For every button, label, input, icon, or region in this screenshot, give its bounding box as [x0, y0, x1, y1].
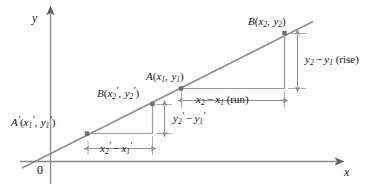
figure-canvas	[0, 0, 379, 194]
run-large-note: (run)	[227, 93, 249, 105]
label-xprime: ′	[116, 85, 118, 96]
slope-similar-triangles-figure: y x 0 A′(x1′, y1′) B(x2′, y2′) A(x1, y1)…	[0, 0, 379, 194]
label-ysub: 2	[278, 20, 282, 29]
point-B-prime-label: B(x2′, y2′)	[97, 88, 139, 99]
point-A-prime-label: A′(x1′, y1′)	[11, 117, 55, 128]
rise-large-minus: −	[316, 53, 322, 65]
point-B-marker	[282, 31, 286, 35]
dimension-rise-large	[288, 34, 306, 89]
point-B-prime-marker	[150, 102, 154, 106]
graph-line	[22, 22, 313, 169]
rise-large-note: (rise)	[336, 53, 359, 65]
x-axis-label: x	[344, 166, 349, 178]
label-comma: ,	[267, 15, 270, 27]
point-A-marker	[179, 86, 183, 90]
label-yprime: ′	[49, 114, 51, 125]
label-ysub: 1	[176, 75, 180, 84]
label-rparen: )	[180, 70, 184, 82]
axes-group	[20, 14, 336, 184]
label-comma: ,	[34, 116, 37, 128]
rise-large-a-sub: 2	[310, 58, 314, 67]
label-name: B	[248, 15, 255, 27]
label-yvar: y	[41, 116, 46, 128]
run-large-b-sub: 1	[220, 98, 224, 107]
rise-small-b-prime: ′	[203, 110, 205, 121]
label-name: A	[146, 70, 153, 82]
rise-small-minus: −	[186, 112, 192, 124]
label-xsub: 1	[161, 75, 165, 84]
rise-large-b-sub: 1	[329, 58, 333, 67]
run-large-minus: −	[207, 93, 213, 105]
label-comma: ,	[118, 87, 121, 99]
run-small-b-prime: ′	[130, 140, 132, 151]
run-large-label: x2 − x1 (run)	[196, 94, 249, 105]
rise-small-a-prime: ′	[182, 110, 184, 121]
run-large-a-sub: 2	[201, 98, 205, 107]
run-small-minus: −	[113, 142, 119, 154]
label-name: A	[11, 116, 18, 128]
point-A-label: A(x1, y1)	[146, 71, 184, 82]
label-rparen: )	[52, 116, 56, 128]
dimension-rise-small	[156, 105, 172, 134]
rise-small-label: y2′ − y1′	[173, 113, 205, 124]
run-small-a-prime: ′	[109, 140, 111, 151]
rise-large-label: y2 − y1 (rise)	[305, 54, 359, 65]
label-rparen: )	[135, 87, 139, 99]
label-xsub: 2	[263, 20, 267, 29]
point-B-label: B(x2, y2)	[248, 16, 286, 27]
run-small-label: x2′ − x1′	[100, 143, 132, 154]
label-comma: ,	[165, 70, 168, 82]
label-prime: ′	[18, 114, 20, 125]
point-A-prime-marker	[85, 131, 89, 135]
label-name: B	[97, 87, 104, 99]
label-yvar: y	[125, 87, 130, 99]
y-axis-label: y	[32, 12, 37, 24]
origin-label: 0	[37, 164, 43, 176]
label-rparen: )	[282, 15, 286, 27]
